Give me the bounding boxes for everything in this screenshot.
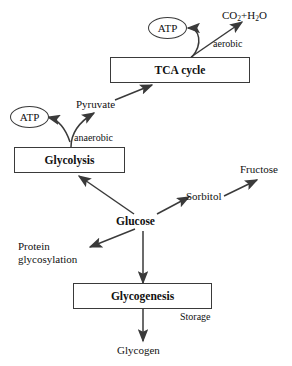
edge-label-anaerobic: anaerobic bbox=[74, 132, 113, 144]
arrow-sorbitol-to-fructose bbox=[224, 180, 257, 196]
label-sorbitol: Sorbitol bbox=[186, 190, 221, 203]
arrow-glucose-to-sorbitol bbox=[157, 197, 189, 214]
node-glycogenesis[interactable]: Glycogenesis bbox=[73, 283, 212, 309]
label-pyruvate: Pyruvate bbox=[76, 98, 115, 111]
label-co2-h2o: CO2+H2O bbox=[222, 9, 267, 23]
arrow-glucose-to-glycolysis bbox=[79, 176, 134, 214]
node-tca-cycle-label: TCA cycle bbox=[155, 64, 206, 76]
arrow-glycolysis-to-atp-anaerobic bbox=[48, 117, 70, 142]
arrow-pyruvate-to-tca bbox=[115, 85, 152, 100]
label-glycogen: Glycogen bbox=[117, 344, 160, 357]
node-atp-anaerobic[interactable]: ATP bbox=[10, 106, 49, 128]
pathway-diagram: ATP CO2+H2O aerobic TCA cycle Pyruvate A… bbox=[0, 0, 292, 366]
node-atp-anaerobic-label: ATP bbox=[20, 111, 40, 123]
node-atp-aerobic-label: ATP bbox=[158, 22, 178, 34]
pathway-arrows-layer bbox=[0, 0, 292, 366]
node-glycolysis-label: Glycolysis bbox=[45, 154, 95, 166]
node-glycogenesis-label: Glycogenesis bbox=[111, 290, 174, 302]
node-glycolysis[interactable]: Glycolysis bbox=[14, 147, 125, 173]
node-atp-aerobic[interactable]: ATP bbox=[148, 17, 187, 39]
label-protein-glycosylation: Protein glycosylation bbox=[18, 240, 77, 266]
edge-label-aerobic: aerobic bbox=[213, 38, 242, 50]
edge-label-storage: Storage bbox=[180, 311, 211, 323]
arrow-glucose-to-protein-glycosylation bbox=[90, 229, 135, 247]
label-fructose: Fructose bbox=[240, 163, 278, 176]
node-tca-cycle[interactable]: TCA cycle bbox=[110, 57, 250, 83]
label-glucose: Glucose bbox=[116, 215, 155, 229]
